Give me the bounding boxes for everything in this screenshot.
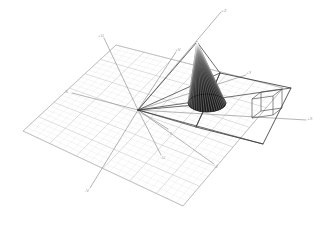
- axis-label-z-positive: +Z: [221, 8, 227, 13]
- ray-origin-to-cone-apex: [138, 42, 197, 110]
- axis-label-x-positive: +X: [307, 116, 313, 121]
- grid-line-v: [103, 67, 200, 169]
- scene-svg: +X-X+Y-Y+Z-Z+U-U+V-V: [0, 0, 329, 243]
- wireframe-cube: [252, 89, 282, 118]
- grid-line-u: [89, 70, 254, 122]
- axis-label-y-positive: +Y: [246, 70, 252, 75]
- grid-plane: [23, 45, 283, 206]
- ray-origin-to-plane-bottom: [138, 110, 263, 144]
- axis-label-v-negative: -V: [85, 188, 90, 193]
- axis-label-x-negative: -X: [64, 89, 69, 94]
- axis-label-z-negative: -Z: [214, 164, 219, 169]
- axis-label-v-positive: +V: [175, 47, 181, 52]
- cone-shape: [188, 42, 226, 112]
- grid-line-u: [93, 67, 258, 118]
- axis-z-negative: [138, 110, 214, 164]
- grid-line-u: [97, 63, 263, 113]
- diagram-canvas: +X-X+Y-Y+Z-Z+U-U+V-V: [0, 0, 329, 243]
- axis-label-y-negative: -Y: [168, 131, 173, 136]
- cube-front-face: [252, 96, 273, 118]
- axis-label-u-negative: -U: [161, 155, 166, 160]
- axis-label-u-positive: +U: [98, 33, 104, 38]
